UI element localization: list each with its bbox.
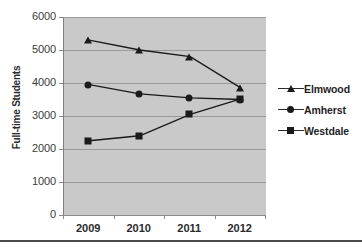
data-point-amherst-2010 xyxy=(135,90,142,97)
y-tick-mark xyxy=(59,50,63,51)
legend-marker-triangle-icon xyxy=(278,83,304,95)
x-tick-label: 2011 xyxy=(164,222,214,234)
bottom-divider xyxy=(0,240,362,242)
legend-label: Amherst xyxy=(304,104,346,116)
data-point-elmwood-2010 xyxy=(135,47,143,54)
series-lines xyxy=(64,17,266,215)
legend-label: Elmwood xyxy=(304,83,350,95)
chart-legend: Elmwood Amherst Westdale xyxy=(278,78,362,141)
x-tick-label: 2010 xyxy=(114,222,164,234)
x-tick-mark xyxy=(114,215,115,219)
y-tick-label: 4000 xyxy=(16,76,56,88)
x-tick-mark xyxy=(265,215,266,219)
y-tick-mark xyxy=(59,83,63,84)
data-point-amherst-2011 xyxy=(186,94,193,101)
y-tick-mark xyxy=(59,116,63,117)
x-tick-mark xyxy=(215,215,216,219)
legend-item: Elmwood xyxy=(278,78,362,99)
legend-item: Westdale xyxy=(278,120,362,141)
y-axis-title: Full-time Students xyxy=(11,48,22,168)
y-tick-label: 5000 xyxy=(16,43,56,55)
data-point-amherst-2009 xyxy=(85,81,92,88)
series-line-amherst xyxy=(89,85,241,100)
data-point-westdale-2009 xyxy=(85,137,92,144)
y-tick-label: 6000 xyxy=(16,10,56,22)
y-tick-label: 1000 xyxy=(16,175,56,187)
data-point-elmwood-2009 xyxy=(84,37,92,44)
data-point-elmwood-2011 xyxy=(185,53,193,60)
x-tick-label: 2009 xyxy=(63,222,113,234)
data-point-elmwood-2012 xyxy=(236,84,244,91)
plot-area xyxy=(63,17,266,215)
x-tick-label: 2012 xyxy=(215,222,265,234)
legend-item: Amherst xyxy=(278,99,362,120)
legend-marker-square-icon xyxy=(278,125,304,137)
y-tick-mark xyxy=(59,17,63,18)
y-tick-mark xyxy=(59,182,63,183)
x-tick-mark xyxy=(63,215,64,219)
y-tick-label: 3000 xyxy=(16,109,56,121)
series-line-elmwood xyxy=(89,40,241,88)
data-point-westdale-2010 xyxy=(135,132,142,139)
legend-label: Westdale xyxy=(304,125,349,137)
y-tick-label: 0 xyxy=(16,208,56,220)
y-tick-mark xyxy=(59,149,63,150)
data-point-westdale-2011 xyxy=(186,111,193,118)
legend-marker-circle-icon xyxy=(278,104,304,116)
chart-figure: 0100020003000400050006000 20092010201120… xyxy=(0,0,362,251)
data-point-westdale-2012 xyxy=(236,95,243,102)
x-tick-mark xyxy=(164,215,165,219)
series-line-westdale xyxy=(89,99,241,141)
y-tick-label: 2000 xyxy=(16,142,56,154)
